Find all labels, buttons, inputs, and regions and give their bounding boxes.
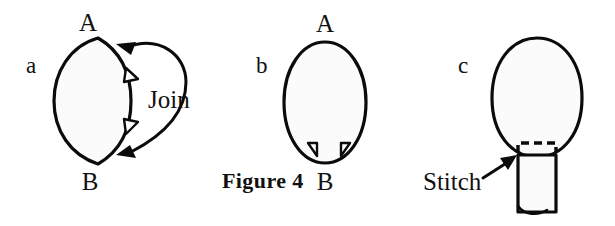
stitch-label: Stitch	[423, 168, 482, 195]
panel-a: a A B Join	[26, 9, 190, 195]
join-arrowhead-top	[116, 42, 136, 55]
stitch-arrow-shaft	[483, 162, 508, 178]
lens-notch-upper	[124, 68, 138, 82]
panel-b-vertex-b-label: B	[317, 168, 334, 195]
figure-illustration: a A B Join b A B	[0, 0, 615, 226]
lens-shape-outline	[54, 38, 131, 164]
panel-b-letter: b	[256, 53, 268, 78]
stitch-arrowhead	[500, 155, 517, 170]
panel-a-vertex-b-label: B	[82, 168, 99, 195]
figure-caption: Figure 4	[222, 168, 304, 193]
tube-body	[518, 155, 556, 212]
join-label: Join	[148, 86, 190, 113]
circle-b-outline	[284, 42, 366, 163]
circle-c-outline	[492, 38, 582, 157]
panel-a-vertex-a-label: A	[79, 9, 97, 36]
panel-c: c Stitch	[423, 38, 582, 214]
figure-svg-canvas: a A B Join b A B	[0, 0, 615, 226]
lens-notch-lower	[124, 119, 138, 134]
panel-c-letter: c	[458, 53, 468, 78]
panel-b-vertex-a-label: A	[316, 10, 334, 37]
panel-a-letter: a	[26, 53, 36, 78]
